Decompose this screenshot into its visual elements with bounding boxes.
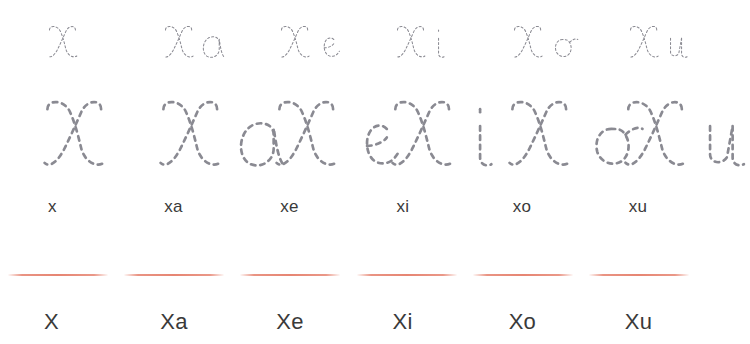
rule-cell-xe <box>232 268 348 282</box>
trace-small-cell-xu <box>581 16 697 70</box>
uppercase-cell-xo: Xo <box>465 305 581 339</box>
uppercase-cell-xe: Xe <box>232 305 348 339</box>
lowercase-label-xi: xi <box>396 192 409 222</box>
lowercase-label-xa: xa <box>164 192 183 222</box>
lowercase-label-x: x <box>48 192 57 222</box>
trace-small-cell-xe <box>232 16 348 70</box>
trace-row-small <box>0 16 697 70</box>
traced-glyph-xi-small <box>392 23 455 63</box>
traced-glyph-xu-small <box>625 23 694 63</box>
uppercase-cell-x: X <box>0 305 116 339</box>
rule-cell-xa <box>116 268 232 282</box>
uppercase-label-xo: Xo <box>509 305 537 339</box>
trace-large-cell-xo <box>465 92 581 180</box>
traced-glyph-xa-small <box>160 23 233 63</box>
rule-cell-xo <box>465 268 581 282</box>
traced-glyph-xe-small <box>276 23 349 63</box>
uppercase-cell-xu: Xu <box>581 305 697 339</box>
rule-cell-xu <box>581 268 697 282</box>
trace-large-cell-xu <box>581 92 697 180</box>
practice-rule-line-xu <box>589 274 689 276</box>
practice-rule-line-xe <box>240 274 340 276</box>
trace-row-large <box>0 92 697 180</box>
traced-glyph-x-large <box>36 95 121 177</box>
trace-large-cell-x <box>0 92 116 180</box>
trace-large-cell-xa <box>116 92 232 180</box>
lowercase-cell-xe: xe <box>232 192 348 222</box>
uppercase-label-xe: Xe <box>276 305 304 339</box>
uppercase-label-row: X Xa Xe Xi Xo Xu <box>0 305 697 339</box>
uppercase-label-x: X <box>44 305 59 339</box>
uppercase-cell-xi: Xi <box>348 305 464 339</box>
traced-glyph-x-small <box>44 23 85 63</box>
trace-small-cell-xa <box>116 16 232 70</box>
trace-small-cell-x <box>0 16 116 70</box>
uppercase-cell-xa: Xa <box>116 305 232 339</box>
trace-large-cell-xi <box>348 92 464 180</box>
traced-glyph-xu-large <box>617 95 750 177</box>
lowercase-cell-xo: xo <box>465 192 581 222</box>
trace-small-cell-xi <box>348 16 464 70</box>
practice-rule-line-xo <box>473 274 573 276</box>
rule-cell-xi <box>348 268 464 282</box>
rule-cell-x <box>0 268 116 282</box>
practice-rule-line-xa <box>124 274 224 276</box>
lowercase-label-row: x xa xe xi xo xu <box>0 192 697 222</box>
trace-large-cell-xe <box>232 92 348 180</box>
lowercase-label-xo: xo <box>513 192 532 222</box>
lowercase-cell-xu: xu <box>581 192 697 222</box>
lowercase-label-xu: xu <box>629 192 648 222</box>
lowercase-cell-xi: xi <box>348 192 464 222</box>
practice-rule-line-x <box>8 274 108 276</box>
lowercase-cell-x: x <box>0 192 116 222</box>
trace-small-cell-xo <box>465 16 581 70</box>
practice-rule-row <box>0 268 697 282</box>
uppercase-label-xi: Xi <box>392 305 412 339</box>
uppercase-label-xu: Xu <box>625 305 653 339</box>
uppercase-label-xa: Xa <box>160 305 188 339</box>
practice-rule-line-xi <box>357 274 457 276</box>
lowercase-label-xe: xe <box>280 192 299 222</box>
lowercase-cell-xa: xa <box>116 192 232 222</box>
traced-glyph-xo-small <box>509 23 582 63</box>
